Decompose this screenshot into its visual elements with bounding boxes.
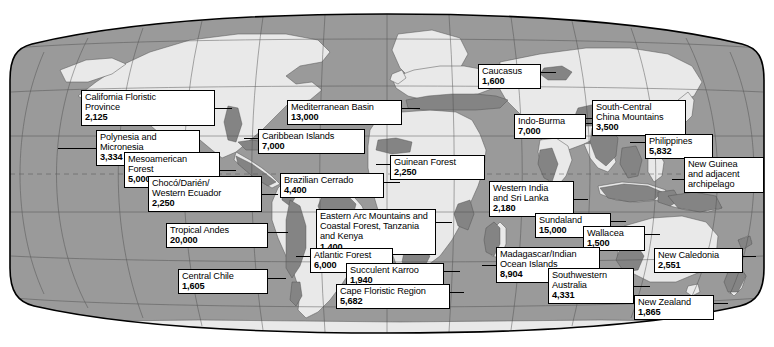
- hotspot-endemic-plant-count: 3,500: [596, 122, 682, 132]
- leader-line-tropical-andes: [268, 232, 288, 233]
- hotspot-endemic-plant-count: 5,832: [649, 146, 709, 156]
- hotspot-endemic-plant-count: 20,000: [170, 235, 264, 245]
- hotspot-label-mediterranean-basin: Mediterranean Basin13,000: [287, 100, 402, 125]
- hotspot-name-line: New Guinea: [688, 159, 760, 169]
- hotspot-name-line: Brazilian Cerrado: [284, 175, 380, 185]
- hotspot-name-line: and Sri Lanka: [493, 193, 570, 203]
- hotspot-label-southwestern-australia: SouthwesternAustralia4,331: [548, 268, 634, 304]
- hotspot-name-line: Caucasus: [482, 66, 537, 76]
- hotspot-label-south-central-china-mountains: South-CentralChina Mountains3,500: [592, 100, 686, 136]
- hotspot-label-cape-floristic-region: Cape Floristic Region5,682: [336, 284, 450, 309]
- leader-line-succulent-karroo: [444, 271, 460, 272]
- hotspot-label-brazilian-cerrado: Brazilian Cerrado4,400: [280, 173, 384, 198]
- hotspot-endemic-plant-count: 1,865: [638, 307, 710, 317]
- leader-line-guinean-forest: [376, 164, 390, 165]
- leader-line-cape-floristic-region: [450, 292, 464, 293]
- leader-line-central-chile: [268, 278, 286, 279]
- hotspot-name-line: Coastal Forest, Tanzania: [320, 221, 432, 231]
- hotspot-endemic-plant-count: 4,400: [284, 185, 380, 195]
- hotspot-name-line: Mesoamerican: [128, 154, 216, 164]
- hotspot-name-line: Forest: [128, 164, 216, 174]
- hotspot-endemic-plant-count: 2,250: [152, 198, 258, 208]
- hotspot-name-line: Wallacea: [587, 228, 641, 238]
- hotspot-name-line: Cape Floristic Region: [340, 286, 446, 296]
- leader-line-mediterranean-basin: [402, 108, 420, 109]
- hotspot-name-line: Sundaland: [539, 215, 607, 225]
- hotspot-name-line: Tropical Andes: [170, 225, 264, 235]
- hotspot-name-line: Philippines: [649, 136, 709, 146]
- hotspot-label-choco-darien-western-ecuador: Chocó/Darién/Western Ecuador2,250: [148, 176, 262, 212]
- hotspot-name-line: California Floristic: [85, 92, 211, 102]
- hotspot-name-line: Chocó/Darién/: [152, 178, 258, 188]
- hotspot-endemic-plant-count: 7,000: [262, 141, 361, 151]
- hotspot-endemic-plant-count: 5,682: [340, 296, 446, 306]
- leader-line-eastern-arc-mountains: [436, 222, 452, 223]
- hotspot-label-new-zealand: New Zealand1,865: [634, 295, 714, 320]
- hotspot-endemic-plant-count: 4,331: [552, 290, 630, 300]
- hotspot-name-line: Mediterranean Basin: [291, 102, 398, 112]
- leader-line-western-india-and-sri-lanka: [574, 199, 588, 200]
- hotspot-endemic-plant-count: 1,605: [182, 281, 264, 291]
- hotspot-name-line: Southwestern: [552, 270, 630, 280]
- hotspot-label-california-floristic-province: California FloristicProvince2,125: [81, 90, 215, 126]
- hotspot-name-line: China Mountains: [596, 112, 682, 122]
- leader-line-polynesia-and-micronesia: [58, 148, 96, 149]
- hotspot-name-line: and Kenya: [320, 231, 432, 241]
- hotspot-label-new-guinea-and-adjacent-archipelago: New Guineaand adjacentarchipelago: [684, 157, 764, 193]
- hotspot-label-new-caledonia: New Caledonia2,551: [654, 248, 743, 273]
- hotspot-name-line: Eastern Arc Mountains and: [320, 211, 432, 221]
- hotspot-name-line: New Zealand: [638, 297, 710, 307]
- leader-line-atlantic-forest: [296, 256, 310, 257]
- hotspot-name-line: Atlantic Forest: [314, 250, 389, 260]
- hotspot-endemic-plant-count: 1,600: [482, 76, 537, 86]
- hotspot-name-line: Australia: [552, 280, 630, 290]
- leader-line-madagascar-indian-ocean-islands: [482, 265, 496, 266]
- hotspot-label-guinean-forest: Guinean Forest2,250: [390, 155, 485, 180]
- hotspot-name-line: Guinean Forest: [394, 157, 481, 167]
- hotspot-name-line: Western India: [493, 183, 570, 193]
- leader-line-caucasus: [541, 72, 556, 73]
- leader-line-california-floristic-province: [215, 108, 232, 109]
- leader-line-new-zealand: [714, 303, 728, 304]
- hotspot-label-indo-burma: Indo-Burma7,000: [514, 114, 586, 139]
- hotspot-name-line: Western Ecuador: [152, 188, 258, 198]
- hotspot-endemic-plant-count: 13,000: [291, 112, 398, 122]
- hotspot-name-line: and adjacent: [688, 169, 760, 179]
- hotspot-name-line: Indo-Burma: [518, 116, 582, 126]
- hotspot-name-line: Succulent Karroo: [350, 265, 440, 275]
- leader-line-brazilian-cerrado: [384, 182, 400, 183]
- leader-line-new-guinea-and-adjacent-archipelago: [672, 179, 684, 180]
- hotspot-name-line: South-Central: [596, 102, 682, 112]
- hotspot-endemic-plant-count: 2,250: [394, 167, 481, 177]
- hotspot-name-line: Province: [85, 102, 211, 112]
- leader-line-caribbean-islands: [244, 138, 258, 139]
- hotspot-endemic-plant-count: 2,551: [658, 260, 739, 270]
- leader-line-mesoamerican-forest: [220, 170, 236, 171]
- hotspot-name-line: Central Chile: [182, 271, 264, 281]
- hotspot-endemic-plant-count: 2,125: [85, 112, 211, 122]
- hotspot-name-line: Madagascar/Indian: [500, 249, 596, 259]
- leader-line-southwestern-australia: [634, 286, 650, 287]
- hotspot-label-western-india-and-sri-lanka: Western Indiaand Sri Lanka2,180: [489, 181, 574, 217]
- leader-line-philippines: [630, 142, 645, 143]
- hotspot-label-philippines: Philippines5,832: [645, 134, 713, 159]
- hotspot-name-line: New Caledonia: [658, 250, 739, 260]
- leader-line-wallacea: [645, 234, 660, 235]
- leader-line-new-caledonia: [743, 256, 756, 257]
- hotspot-label-caucasus: Caucasus1,600: [478, 64, 541, 89]
- hotspot-name-line: Polynesia and: [100, 132, 196, 142]
- leader-line-sundaland: [611, 221, 626, 222]
- hotspot-label-central-chile: Central Chile1,605: [178, 269, 268, 294]
- hotspot-name-line: archipelago: [688, 179, 760, 189]
- hotspot-label-tropical-andes: Tropical Andes20,000: [166, 223, 268, 248]
- hotspot-label-caribbean-islands: Caribbean Islands7,000: [258, 129, 365, 154]
- biodiversity-hotspots-map-figure: California FloristicProvince2,125Polynes…: [0, 0, 774, 347]
- hotspot-name-line: Micronesia: [100, 142, 196, 152]
- leader-line-choco-darien-western-ecuador: [262, 194, 278, 195]
- hotspot-name-line: Caribbean Islands: [262, 131, 361, 141]
- hotspot-endemic-plant-count: 7,000: [518, 126, 582, 136]
